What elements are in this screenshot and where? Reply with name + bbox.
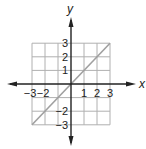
x-axis-label: x (138, 77, 146, 91)
x-tick-label: 3 (107, 87, 113, 99)
y-tick-label: 2 (62, 51, 68, 63)
y-tick-label: 3 (62, 37, 68, 49)
x-tick-label: 2 (94, 87, 100, 99)
x-tick-label: 1 (81, 87, 87, 99)
x-tick-label: −3 (24, 87, 37, 99)
x-axis-right-arrow-icon (126, 82, 136, 87)
coordinate-plane: x y −3−2123 321−2−3 (0, 0, 146, 149)
y-tick-label: 1 (62, 64, 68, 76)
y-axis-up-arrow-icon (69, 17, 74, 27)
y-axis-label: y (66, 2, 74, 16)
x-tick-label: −2 (37, 87, 50, 99)
y-tick-label: −3 (55, 119, 68, 131)
y-tick-label: −2 (55, 105, 68, 117)
x-axis-left-arrow-icon (7, 82, 17, 87)
y-axis-down-arrow-icon (69, 136, 74, 146)
